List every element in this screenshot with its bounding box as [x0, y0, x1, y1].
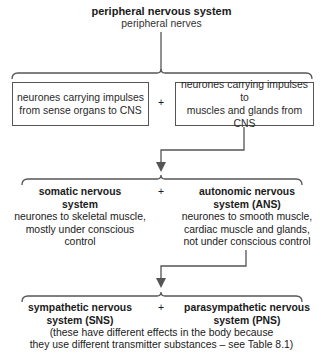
autonomic-nervous-system: autonomic nervous system (ANS) neurones … [172, 186, 322, 249]
ans-desc: neurones to smooth muscle, [172, 211, 322, 224]
box-line: from sense organs to CNS [17, 104, 144, 117]
sensory-neurones-box: neurones carrying impulses from sense or… [12, 82, 149, 126]
box-line: neurones carrying impulses to [176, 78, 313, 104]
sns-title: system (SNS) [10, 315, 150, 328]
parasympathetic-nervous-system: parasympathetic nervous system (PNS) [172, 302, 322, 327]
ans-desc: not under conscious control [172, 236, 322, 249]
somatic-desc: neurones to skeletal muscle, [5, 211, 155, 224]
box-line: muscles and glands from CNS [176, 104, 313, 130]
note-line: they use different transmitter substance… [0, 339, 323, 352]
somatic-title: system [5, 199, 155, 212]
ans-desc: cardiac muscle and glands, [172, 224, 322, 237]
sns-title: sympathetic nervous [10, 302, 150, 315]
somatic-nervous-system: somatic nervous system neurones to skele… [5, 186, 155, 249]
plus-sign: + [155, 186, 167, 199]
motor-neurones-box: neurones carrying impulses to muscles an… [175, 82, 314, 126]
root-title: peripheral nervous system [0, 5, 323, 18]
plus-sign: + [155, 97, 167, 110]
pns-title: system (PNS) [172, 315, 322, 328]
note-line: (these have different effects in the bod… [0, 327, 323, 340]
pns-title: parasympathetic nervous [172, 302, 322, 315]
sympathetic-nervous-system: sympathetic nervous system (SNS) [10, 302, 150, 327]
somatic-desc: mostly under conscious [5, 224, 155, 237]
root-subtitle: peripheral nerves [0, 18, 323, 31]
box-line: neurones carrying impulses [17, 91, 144, 104]
ans-title: autonomic nervous [172, 186, 322, 199]
plus-sign: + [155, 302, 167, 315]
somatic-title: somatic nervous [5, 186, 155, 199]
ans-title: system (ANS) [172, 199, 322, 212]
somatic-desc: control [5, 236, 155, 249]
